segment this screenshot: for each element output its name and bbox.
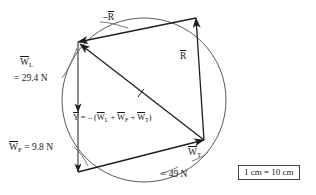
label-w-t-value: = 49 N — [161, 170, 187, 180]
label-w-l-value: = 29.4 N — [14, 74, 48, 84]
vector-wt — [78, 140, 204, 172]
label-w-f: WF = 9.8 N — [9, 143, 53, 153]
label-w-t: WT — [188, 148, 201, 158]
label-y-equation: Y = – (WL + WF + WT) — [73, 114, 152, 123]
label-negative-r: –R — [103, 13, 114, 23]
label-r: R — [180, 52, 186, 62]
vector-negative-r — [78, 18, 196, 42]
scale-note: 1 cm = 10 cm — [238, 165, 300, 180]
leader-line-wf — [74, 147, 88, 166]
vector-r — [196, 18, 204, 140]
leader-line-wl — [62, 48, 77, 78]
label-w-l: WL — [20, 58, 33, 68]
